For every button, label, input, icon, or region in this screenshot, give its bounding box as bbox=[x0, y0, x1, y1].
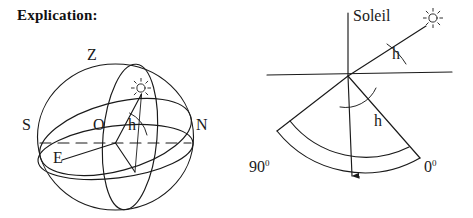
sight-line-to-sun bbox=[348, 26, 426, 76]
label-zenith: Z bbox=[87, 47, 97, 63]
scale-0-degree: 0 bbox=[432, 158, 437, 168]
radius-to-horizon-foot bbox=[116, 143, 136, 172]
label-altitude-angle-left: h bbox=[128, 117, 136, 133]
quadrant-instrument-group bbox=[267, 13, 452, 176]
celestial-sphere-group bbox=[31, 62, 199, 212]
horizon-line bbox=[267, 72, 452, 75]
figure-page: Explication: bbox=[0, 0, 473, 218]
label-scale-90: 900 bbox=[249, 159, 270, 175]
meridian-ellipse bbox=[31, 84, 199, 190]
scale-90-degree: 0 bbox=[265, 158, 270, 168]
sun-icon bbox=[131, 78, 150, 97]
label-soleil: Soleil bbox=[353, 8, 390, 24]
label-east: E bbox=[53, 150, 63, 166]
label-altitude-angle-lower: h bbox=[374, 113, 382, 129]
lower-angle-arc bbox=[340, 88, 376, 108]
sphere-outline bbox=[38, 64, 194, 210]
plumb-line bbox=[348, 76, 352, 176]
diagram-canvas bbox=[0, 0, 473, 218]
scale-90-value: 90 bbox=[249, 158, 265, 175]
label-north: N bbox=[196, 117, 208, 133]
label-observer: O bbox=[93, 117, 105, 133]
label-south: S bbox=[22, 117, 31, 133]
quadrant-right-limb bbox=[348, 76, 420, 158]
label-altitude-angle-upper: h bbox=[392, 46, 400, 62]
vertical-circle bbox=[97, 62, 164, 212]
sun-icon bbox=[423, 8, 442, 27]
label-scale-0: 00 bbox=[424, 159, 437, 175]
scale-0-value: 0 bbox=[424, 158, 432, 175]
sun-altitude-drop bbox=[135, 94, 142, 172]
quadrant-left-limb bbox=[277, 76, 348, 131]
radius-to-east bbox=[62, 143, 116, 160]
